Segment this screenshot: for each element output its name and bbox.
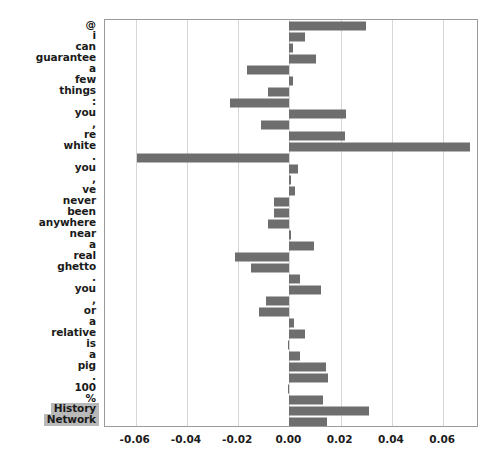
bar [268,220,289,229]
bar [289,164,297,173]
bar [289,109,346,118]
bar [289,131,344,140]
x-tick-label: 0.06 [429,433,455,445]
bar [289,352,300,361]
x-tick-label: 0.04 [378,433,404,445]
plot-area [104,19,478,427]
bar [289,76,292,85]
x-tick-label: 0.02 [327,433,353,445]
gridline [238,20,239,426]
gridline [136,20,137,426]
x-tick-label: -0.02 [222,433,252,445]
bar [251,264,289,273]
bar [289,43,293,52]
x-tick-label: 0.00 [275,433,301,445]
y-tick-label: ghetto [57,261,96,272]
gridline [392,20,393,426]
bar [289,330,304,339]
bar [137,153,289,162]
gridline [443,20,444,426]
y-tick-label: guarantee [36,51,96,62]
gridline [187,20,188,426]
bar [230,98,290,107]
bar [289,21,365,30]
bar [247,65,290,74]
bar [259,308,290,317]
bar [289,396,322,405]
bar [289,32,304,41]
bar [289,142,470,151]
gridline [341,20,342,426]
bar [289,175,291,184]
bar [289,54,316,63]
bar [289,186,295,195]
bar [289,374,327,383]
bar [289,363,325,372]
bar [261,120,290,129]
bar [268,87,289,96]
bar [289,231,291,240]
bar [266,297,289,306]
bar [289,286,321,295]
y-axis-labels: @icanguaranteeafewthings:you,rewhite.you… [0,18,100,428]
bar [289,242,313,251]
bar [288,341,290,350]
bar [289,275,300,284]
bar-chart: @icanguaranteeafewthings:you,rewhite.you… [0,0,501,474]
y-tick-label: things [59,84,96,95]
bar [274,197,289,206]
bar [289,418,326,427]
bar [289,407,368,416]
bar [288,385,290,394]
bar [274,208,289,217]
x-axis-tick-labels: -0.06-0.04-0.020.000.020.040.06 [104,429,478,449]
bar [235,253,290,262]
y-tick-label: Network [44,414,99,426]
bar [289,319,294,328]
x-tick-label: -0.04 [171,433,201,445]
x-tick-label: -0.06 [120,433,150,445]
